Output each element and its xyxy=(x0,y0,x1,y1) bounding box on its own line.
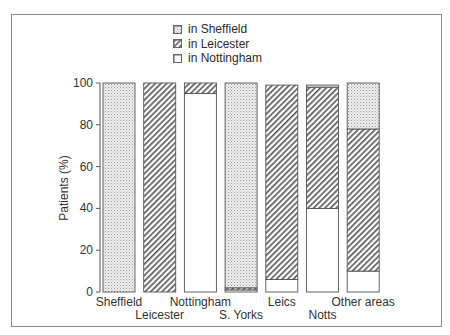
category-labels: SheffieldLeicesterNottinghamS. YorksLeic… xyxy=(96,295,395,322)
category-label: Notts xyxy=(308,308,336,322)
y-tick-label: 20 xyxy=(80,243,94,257)
bar-s-yorks xyxy=(225,83,257,292)
bar-sheffield xyxy=(103,83,135,292)
category-label: Sheffield xyxy=(96,295,142,309)
bar-notts xyxy=(307,85,339,292)
bar-segment xyxy=(225,83,257,288)
category-label: Leicester xyxy=(135,308,184,322)
bar-other-areas xyxy=(347,83,379,292)
y-axis-title: Patients (%) xyxy=(57,155,71,220)
bar-segment xyxy=(184,83,216,93)
bar-segment xyxy=(307,85,339,87)
bar-leicester xyxy=(144,83,176,292)
category-label: Leics xyxy=(268,295,296,309)
y-tick-label: 40 xyxy=(80,201,94,215)
bar-segment xyxy=(347,83,379,129)
bar-segment xyxy=(266,85,298,279)
y-tick-label: 80 xyxy=(80,118,94,132)
bar-segment xyxy=(347,129,379,271)
bar-nottingham xyxy=(184,83,216,292)
y-tick-label: 0 xyxy=(86,285,93,299)
bar-segment xyxy=(184,93,216,292)
bar-segment xyxy=(266,279,298,292)
category-label: Other areas xyxy=(332,295,395,309)
bar-segment xyxy=(307,87,339,208)
y-tick-label: 100 xyxy=(73,76,93,90)
category-label: Nottingham xyxy=(170,295,231,309)
y-axis: 020406080100 Patients (%) xyxy=(57,76,100,299)
bar-segment xyxy=(144,83,176,292)
bar-segment xyxy=(347,271,379,292)
bar-segment xyxy=(103,83,135,292)
stacked-bar-chart: 020406080100 Patients (%) SheffieldLeice… xyxy=(0,0,450,335)
bar-segment xyxy=(307,208,339,292)
category-label: S. Yorks xyxy=(219,308,263,322)
bars xyxy=(103,83,379,292)
y-tick-label: 60 xyxy=(80,160,94,174)
bar-leics xyxy=(266,85,298,292)
